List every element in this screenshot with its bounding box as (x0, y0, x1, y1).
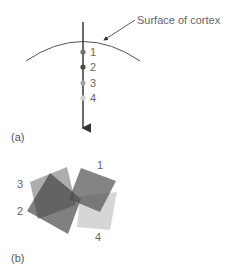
field-3-label: 3 (17, 178, 23, 190)
recording-site-3 (80, 80, 85, 85)
panel-b-label: (b) (11, 252, 24, 264)
recording-site-2 (80, 64, 85, 69)
site-4-label: 4 (90, 92, 96, 104)
diagram-canvas: Surface of cortex 1 2 3 4 (a) 1 2 3 4 (b… (0, 0, 230, 272)
site-1-label: 1 (90, 46, 96, 58)
panel-a: Surface of cortex 1 2 3 4 (a) (11, 14, 221, 143)
recording-site-4 (80, 95, 85, 100)
panel-a-label: (a) (11, 131, 24, 143)
site-3-label: 3 (90, 77, 96, 89)
annotation-pointer-arrow (104, 20, 135, 40)
panel-b: 1 2 3 4 (b) (11, 159, 117, 264)
field-2-label: 2 (17, 205, 23, 217)
field-4-label: 4 (95, 231, 101, 243)
field-1-label: 1 (97, 159, 103, 171)
surface-of-cortex-label: Surface of cortex (137, 14, 221, 26)
site-2-label: 2 (90, 61, 96, 73)
recording-site-1 (80, 49, 85, 54)
